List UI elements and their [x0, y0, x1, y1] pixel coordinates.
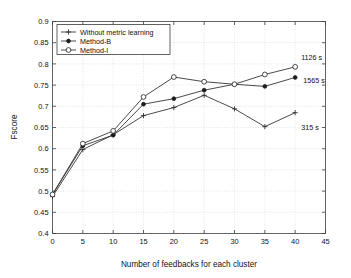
data-point — [263, 84, 267, 88]
data-point — [80, 141, 85, 146]
x-axis-title: Number of feedbacks for each cluster — [121, 260, 257, 269]
legend-label: Method-B — [80, 37, 111, 46]
runtime-annotation: 1126 s — [301, 53, 322, 62]
runtime-annotation: 315 s — [301, 123, 319, 132]
runtime-annotation: 1565 s — [303, 76, 325, 85]
y-tick-label: 0.6 — [38, 144, 48, 153]
chart-figure: 0.40.450.50.550.60.650.70.750.80.850.9 0… — [0, 0, 351, 278]
data-point — [293, 64, 298, 69]
y-tick-label: 0.9 — [38, 17, 48, 26]
data-point — [262, 72, 267, 77]
y-tick-label: 0.8 — [38, 60, 48, 69]
legend-marker — [67, 39, 71, 43]
legend-label: Without metric learning — [80, 28, 154, 37]
data-point — [111, 128, 116, 133]
data-point — [293, 76, 297, 80]
data-point — [171, 75, 176, 80]
y-tick-label: 0.65 — [34, 123, 48, 132]
data-point — [111, 133, 115, 137]
x-tick-label: 45 — [321, 237, 329, 246]
data-point — [50, 192, 55, 197]
legend-label: Method-I — [80, 46, 108, 55]
y-tick-label: 0.4 — [38, 229, 48, 238]
chart-legend: Without metric learningMethod-BMethod-I — [57, 25, 170, 55]
y-tick-label: 0.55 — [34, 166, 48, 175]
y-tick-label: 0.5 — [38, 187, 48, 196]
x-tick-label: 10 — [109, 237, 117, 246]
x-tick-label: 0 — [50, 237, 54, 246]
x-tick-label: 40 — [291, 237, 299, 246]
legend-marker — [66, 48, 71, 53]
data-point — [142, 102, 146, 106]
x-tick-label: 5 — [81, 237, 85, 246]
y-tick-label: 0.45 — [34, 208, 48, 217]
x-tick-label: 20 — [170, 237, 178, 246]
y-tick-label: 0.75 — [34, 81, 48, 90]
data-point — [202, 88, 206, 92]
data-point — [202, 79, 207, 84]
x-tick-label: 15 — [139, 237, 147, 246]
fscore-line-chart: 0.40.450.50.550.60.650.70.750.80.850.9 0… — [0, 0, 351, 278]
x-tick-label: 25 — [200, 237, 208, 246]
x-tick-label: 35 — [261, 237, 269, 246]
y-axis-title: Fscore — [10, 114, 19, 139]
x-tick-label: 30 — [230, 237, 238, 246]
y-tick-label: 0.7 — [38, 102, 48, 111]
data-point — [141, 95, 146, 100]
data-point — [172, 97, 176, 101]
y-tick-label: 0.85 — [34, 38, 48, 47]
data-point — [232, 82, 237, 87]
